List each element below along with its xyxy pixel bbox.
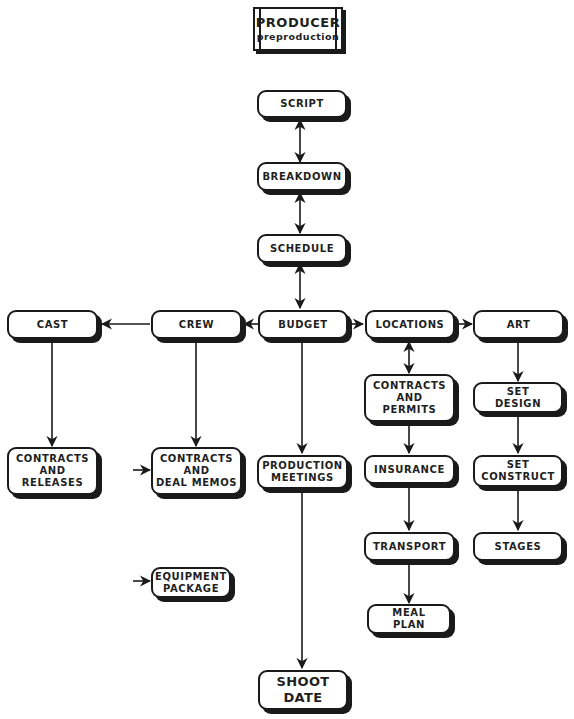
node-shoot-date[interactable]: SHOOT DATE — [258, 670, 348, 710]
node-locations[interactable]: LOCATIONS — [365, 310, 455, 339]
node-contracts-releases[interactable]: CONTRACTS AND RELEASES — [7, 447, 98, 495]
node-breakdown[interactable]: BREAKDOWN — [257, 162, 347, 191]
node-contracts-permits[interactable]: CONTRACTS AND PERMITS — [364, 374, 455, 422]
node-set-design[interactable]: SET DESIGN — [473, 382, 563, 413]
node-stages[interactable]: STAGES — [473, 532, 563, 561]
producer-preproduction-flowchart: PRODUCER preproduction SCRIPT BREAKDOWN … — [0, 0, 574, 719]
node-meal-plan[interactable]: MEAL PLAN — [367, 604, 451, 634]
node-cast[interactable]: CAST — [7, 310, 98, 339]
node-contracts-deal-memos[interactable]: CONTRACTS AND DEAL MEMOS — [151, 447, 242, 495]
node-art[interactable]: ART — [473, 310, 564, 339]
node-equipment-package[interactable]: EQUIPMENT PACKAGE — [151, 567, 231, 598]
node-crew[interactable]: CREW — [151, 310, 242, 339]
node-script[interactable]: SCRIPT — [257, 90, 347, 118]
node-budget[interactable]: BUDGET — [258, 310, 348, 339]
node-insurance[interactable]: INSURANCE — [364, 455, 455, 484]
producer-title-box: PRODUCER preproduction — [253, 7, 343, 51]
title-sub: preproduction — [257, 31, 340, 43]
node-schedule[interactable]: SCHEDULE — [257, 234, 347, 263]
node-production-meetings[interactable]: PRODUCTION MEETINGS — [257, 455, 348, 489]
node-set-construct[interactable]: SET CONSTRUCT — [473, 455, 563, 487]
title-main: PRODUCER — [256, 15, 340, 31]
node-transport[interactable]: TRANSPORT — [364, 532, 455, 561]
